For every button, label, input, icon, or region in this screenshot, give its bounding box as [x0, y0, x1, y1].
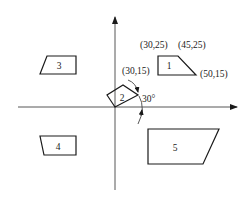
rotation-arc-top-arrow-icon [128, 80, 138, 92]
coord-label-30-25: (30,25) [140, 40, 168, 51]
coord-label-30-15: (30,15) [122, 66, 150, 77]
shape-2-label: 2 [120, 93, 125, 103]
shape-5-label: 5 [173, 143, 178, 153]
shape-4-label: 4 [56, 142, 61, 152]
coord-label-45-25: (45,25) [178, 40, 206, 51]
coord-label-50-15: (50,15) [200, 69, 228, 80]
shape-1-label: 1 [167, 61, 172, 71]
rotation-arc-mid-arrow-icon [141, 110, 142, 116]
rotation-angle-label: 30° [142, 94, 156, 104]
shape-5-trapezoid [148, 129, 219, 164]
shape-3-label: 3 [57, 61, 62, 71]
shape-1-trapezoid [158, 56, 196, 75]
transformation-diagram: 1 2 3 4 5 (30,25) (45,25) (50,15) (30,15… [0, 0, 249, 200]
